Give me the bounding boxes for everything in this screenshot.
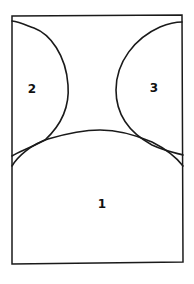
region-1-label: 1 (98, 197, 106, 211)
region-3-label: 3 (150, 81, 158, 95)
outer-rectangle (12, 15, 183, 264)
region-2-label: 2 (28, 82, 36, 96)
region-diagram: 2 3 1 (0, 0, 194, 284)
